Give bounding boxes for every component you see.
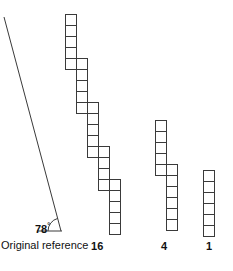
block-columns-group <box>66 15 215 237</box>
block-square <box>110 180 121 191</box>
block-square <box>88 103 99 114</box>
block-square <box>167 220 178 231</box>
block-square <box>204 204 215 215</box>
block-square <box>204 193 215 204</box>
block-square <box>77 59 88 70</box>
block-square <box>77 70 88 81</box>
block-square <box>110 191 121 202</box>
block-square <box>110 224 121 235</box>
block-square <box>204 182 215 193</box>
original-reference-caption: Original reference <box>1 238 88 252</box>
block-square <box>156 132 167 143</box>
column-label-4: 4 <box>161 240 167 252</box>
block-square <box>156 154 167 165</box>
block-square <box>204 215 215 226</box>
block-square <box>88 136 99 147</box>
column-16 <box>66 15 121 235</box>
block-square <box>167 209 178 220</box>
block-square <box>88 114 99 125</box>
column-1 <box>204 171 215 237</box>
block-square <box>167 176 178 187</box>
block-square <box>156 165 167 176</box>
block-square <box>204 226 215 237</box>
degree-symbol: ° <box>47 222 50 229</box>
block-square <box>110 213 121 224</box>
block-square <box>99 180 110 191</box>
angle-value-label: 78° <box>35 220 50 235</box>
column-4 <box>156 121 178 231</box>
original-reference-angle <box>4 17 62 231</box>
block-square <box>66 48 77 59</box>
block-square <box>110 202 121 213</box>
block-square <box>156 143 167 154</box>
column-label-1: 1 <box>206 240 212 252</box>
block-square <box>167 165 178 176</box>
block-square <box>99 158 110 169</box>
block-square <box>77 103 88 114</box>
block-square <box>66 37 77 48</box>
block-square <box>88 125 99 136</box>
block-square <box>167 198 178 209</box>
reference-ray-line <box>4 17 61 231</box>
figure-canvas: 78° Original reference 16 4 1 <box>0 0 233 271</box>
block-square <box>156 121 167 132</box>
angle-number: 78 <box>35 223 47 235</box>
block-square <box>88 147 99 158</box>
block-square <box>66 59 77 70</box>
column-label-16: 16 <box>91 240 104 252</box>
block-square <box>66 26 77 37</box>
block-square <box>66 15 77 26</box>
block-square <box>99 147 110 158</box>
block-square <box>204 171 215 182</box>
block-square <box>77 81 88 92</box>
block-square <box>99 169 110 180</box>
block-square <box>77 92 88 103</box>
block-square <box>167 187 178 198</box>
